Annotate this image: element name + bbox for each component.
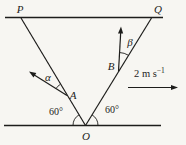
angle-arc-alpha <box>56 84 60 88</box>
label-angle-beta: β <box>126 36 133 48</box>
reference-velocity-base: 2 m s <box>134 68 157 79</box>
label-point-a: A <box>69 89 77 101</box>
label-point-o: O <box>82 130 90 142</box>
velocity-arrow-a-head-icon <box>29 72 36 78</box>
label-reference-velocity: 2 m s−1 <box>134 66 165 79</box>
angle-arc-60-right <box>92 115 98 126</box>
label-point-b: B <box>108 60 115 72</box>
angle-arc-60-left <box>73 115 79 126</box>
velocity-arrow-b-head-icon <box>118 27 123 34</box>
diagram-canvas: P Q O A B α β 60° 60° 2 m s−1 <box>0 0 186 145</box>
reference-velocity-exponent: −1 <box>157 66 165 75</box>
velocity-arrow-b-shaft <box>119 33 121 72</box>
label-angle-60-right: 60° <box>105 104 119 115</box>
label-point-q: Q <box>154 3 162 15</box>
reference-velocity-arrow-head-icon <box>171 85 178 90</box>
physics-diagram: P Q O A B α β 60° 60° 2 m s−1 <box>0 0 186 145</box>
label-angle-60-left: 60° <box>49 106 63 117</box>
label-angle-alpha: α <box>45 71 51 83</box>
angle-arc-beta <box>120 53 129 56</box>
label-point-p: P <box>16 3 24 15</box>
